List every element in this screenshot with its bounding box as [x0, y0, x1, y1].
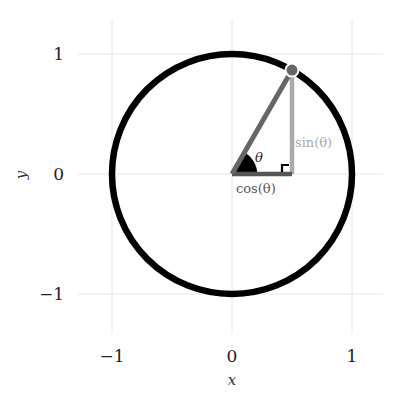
theta-label: θ — [255, 150, 263, 165]
grid — [78, 20, 383, 334]
cos-label: cos(θ) — [236, 181, 276, 196]
unit-circle-chart: −101−101 x y θsin(θ)cos(θ) — [0, 0, 399, 404]
y-tick-label: 1 — [53, 44, 64, 64]
x-axis-label: x — [228, 371, 237, 389]
y-axis-label: y — [12, 170, 30, 180]
tick-labels: −101−101 — [39, 44, 357, 366]
point-on-circle — [286, 64, 299, 77]
y-tick-label: 0 — [53, 164, 64, 184]
x-tick-label: 1 — [347, 346, 358, 366]
sin-label: sin(θ) — [295, 135, 332, 150]
x-tick-label: 0 — [227, 346, 238, 366]
x-tick-label: −1 — [99, 346, 124, 366]
right-angle-marker — [282, 165, 289, 172]
y-tick-label: −1 — [39, 284, 64, 304]
